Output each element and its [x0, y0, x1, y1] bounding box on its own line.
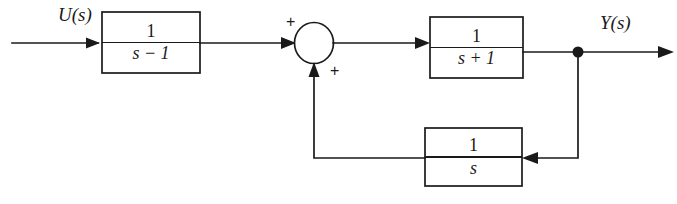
input-signal-label: U(s) — [58, 4, 92, 26]
feedback-wire-right — [522, 52, 578, 164]
summing-junction-sign-bottom-right: + — [330, 62, 339, 80]
feedback-wire-left — [309, 62, 426, 158]
output-signal-label: Y(s) — [600, 12, 631, 34]
feedback-block-input-arrowhead — [522, 152, 538, 164]
input-arrowhead — [86, 38, 100, 49]
forward-block-2-transfer-function: 1 s + 1 — [430, 17, 523, 78]
feedback-block-numerator: 1 — [462, 136, 485, 156]
forward-block-1-numerator: 1 — [140, 22, 163, 42]
wire-block1-to-sum — [200, 37, 296, 49]
block-diagram: U(s) Y(s) 1 s − 1 1 s + 1 1 s + + — [0, 0, 677, 204]
feedback-block-denominator: s — [463, 158, 484, 178]
summing-junction-circle — [295, 23, 334, 64]
block2-input-arrowhead — [415, 37, 430, 49]
forward-block-1-transfer-function: 1 s − 1 — [102, 12, 200, 73]
feedback-block-transfer-function: 1 s — [425, 128, 522, 186]
input-wire — [12, 38, 100, 49]
summing-junction-sign-top-left: + — [286, 13, 295, 31]
forward-block-2-denominator: s + 1 — [451, 48, 502, 68]
output-arrowhead — [658, 46, 674, 58]
forward-block-1-denominator: s − 1 — [125, 43, 176, 63]
forward-block-2-numerator: 1 — [465, 27, 488, 47]
sum-feedback-arrowhead — [309, 62, 320, 77]
wire-sum-to-block2 — [333, 37, 430, 49]
output-wire — [578, 46, 674, 58]
